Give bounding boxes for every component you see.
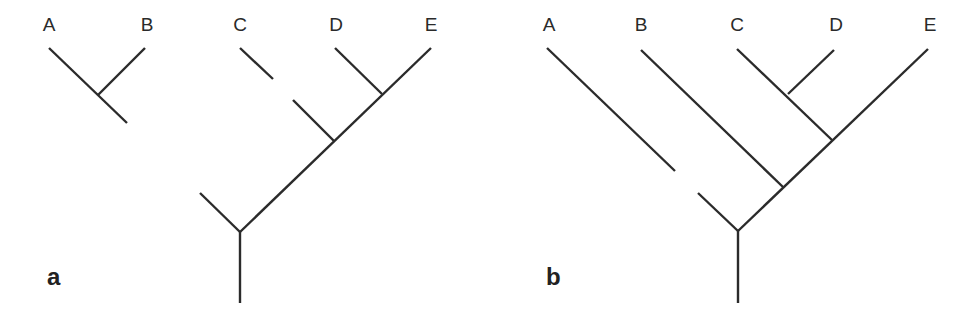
branch-a-A [49, 48, 127, 123]
taxon-label-b-D: D [829, 14, 843, 35]
branch-a-C-upper [240, 48, 273, 79]
branch-a-C-lower [293, 100, 334, 141]
cladogram-figure: A B C D E a A B C D E [0, 0, 976, 312]
branch-a-D [335, 48, 382, 94]
taxon-label-b-A: A [543, 14, 556, 35]
taxon-label-b-B: B [635, 14, 648, 35]
panel-a: A B C D E a [43, 14, 438, 303]
branch-a-root-left [200, 193, 240, 232]
taxon-label-a-C: C [233, 14, 247, 35]
taxon-label-a-B: B [141, 14, 154, 35]
taxon-label-a-D: D [329, 14, 343, 35]
taxon-label-a-A: A [43, 14, 56, 35]
branch-b-C [737, 49, 832, 140]
branch-b-root-left [698, 193, 738, 231]
taxon-label-b-E: E [924, 14, 937, 35]
panel-label-b: b [546, 263, 561, 290]
panel-b: A B C D E b [543, 14, 937, 303]
branch-b-A [547, 48, 675, 171]
taxon-label-a-E: E [425, 14, 438, 35]
taxon-label-b-C: C [730, 14, 744, 35]
panel-label-a: a [47, 263, 61, 290]
branch-b-D [788, 50, 834, 94]
branch-b-B [641, 50, 783, 187]
branch-a-B [98, 48, 145, 95]
